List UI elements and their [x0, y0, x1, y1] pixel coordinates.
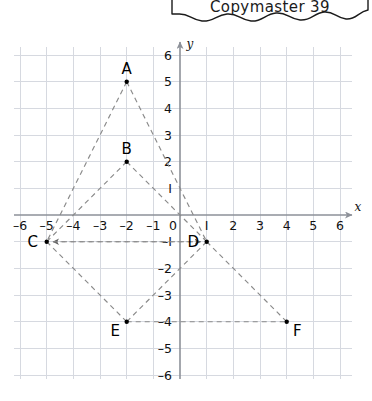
x-tick: 3: [256, 218, 264, 233]
point-marker-c: [45, 240, 49, 244]
x-tick: –6: [13, 218, 27, 233]
point-label-e: E: [111, 322, 120, 340]
x-tick: 0: [169, 218, 177, 233]
point-label-a: A: [122, 60, 133, 78]
segment-d-f: [207, 242, 287, 322]
point-marker-a: [125, 80, 129, 84]
point-marker-f: [285, 320, 289, 324]
y-tick: –3: [158, 288, 172, 303]
x-tick: 5: [309, 218, 317, 233]
point-label-c: C: [28, 233, 38, 251]
point-label-f: F: [293, 322, 302, 340]
y-tick: 4: [164, 101, 172, 116]
segment-b-c: [47, 162, 127, 242]
y-tick: 6: [164, 48, 172, 63]
x-tick: 6: [336, 218, 344, 233]
coordinate-grid-graph: x y –6 –5 –4 –3 –2 –1 0 I 2 3 4 5 6 6 5 …: [0, 34, 372, 386]
dashed-segments: [47, 82, 287, 322]
x-tick: I: [205, 218, 209, 233]
point-marker-e: [125, 320, 129, 324]
y-tick: –2: [158, 261, 172, 276]
y-axis-label: y: [186, 37, 194, 51]
point-label-b: B: [122, 140, 132, 158]
segment-d-e: [127, 242, 207, 322]
segment-b-d: [127, 162, 207, 242]
x-axis-label: x: [355, 200, 362, 214]
y-tick: I: [168, 181, 172, 196]
y-tick: –6: [158, 368, 172, 383]
x-tick: –1: [146, 218, 160, 233]
point-label-d: D: [187, 233, 199, 251]
segment-c-e: [47, 242, 127, 322]
x-tick: –3: [93, 218, 107, 233]
point-marker-d: [205, 240, 209, 244]
x-tick: 4: [283, 218, 291, 233]
x-tick: 2: [229, 218, 237, 233]
y-tick: –5: [158, 341, 172, 356]
page-title: Copymaster 39: [168, 0, 372, 16]
point-marker-b: [125, 160, 129, 164]
y-tick: 2: [164, 154, 172, 169]
x-tick: –2: [120, 218, 134, 233]
y-tick: 5: [164, 74, 172, 89]
y-tick: 3: [164, 128, 172, 143]
